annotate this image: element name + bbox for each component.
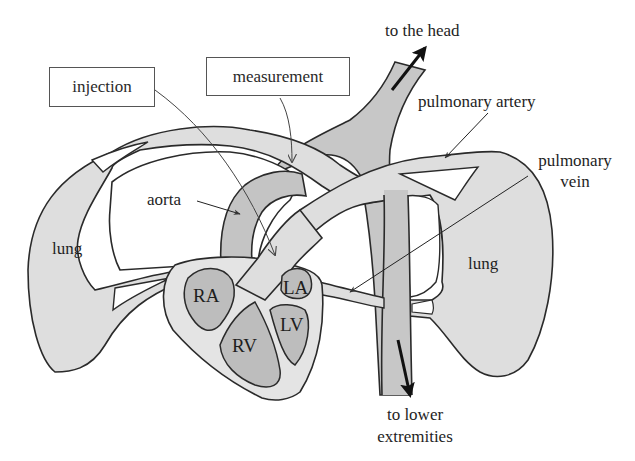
measurement-box: measurement bbox=[206, 57, 350, 96]
vena-cava-lower bbox=[382, 190, 412, 395]
rv-label: RV bbox=[232, 336, 257, 355]
injection-box: injection bbox=[49, 67, 155, 107]
to-lower-line1: to lower bbox=[360, 406, 470, 423]
lung-right-label: lung bbox=[468, 255, 498, 272]
pulmonary-artery-label: pulmonary artery bbox=[418, 93, 536, 110]
pulmonary-vein-label: pulmonary vein bbox=[530, 152, 620, 190]
injection-label: injection bbox=[72, 77, 131, 97]
lv-label: LV bbox=[280, 315, 304, 334]
to-lower-label: to lower extremities bbox=[360, 406, 470, 445]
ra-label: RA bbox=[193, 286, 219, 305]
pulmonary-vein-line1: pulmonary bbox=[530, 152, 620, 169]
pulmonary-vein-line2: vein bbox=[530, 173, 620, 190]
la-label: LA bbox=[283, 278, 308, 297]
aorta-label: aorta bbox=[147, 191, 181, 208]
to-lower-line2: extremities bbox=[360, 428, 470, 445]
measurement-label: measurement bbox=[233, 67, 324, 87]
to-head-label: to the head bbox=[385, 22, 460, 39]
lung-left-label: lung bbox=[52, 240, 82, 257]
